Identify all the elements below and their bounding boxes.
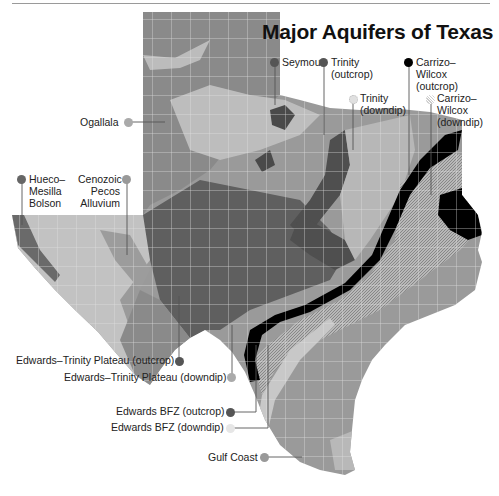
seymour-label: Seymour bbox=[282, 56, 324, 68]
trinity-downdip-label: Trinity (downdip) bbox=[360, 92, 406, 116]
map-title: Major Aquifers of Texas bbox=[262, 20, 493, 44]
carrizo-wilcox-downdip-label: Carrizo– Wilcox (downdip) bbox=[437, 92, 483, 128]
edwards-trinity-downdip-label: Edwards–Trinity Plateau (downdip) bbox=[64, 371, 226, 383]
ogallala-legend-dot bbox=[124, 118, 133, 127]
hueco-mesilla-legend-dot bbox=[17, 175, 26, 184]
cenozoic-pecos-alluvium-label: Cenozoic Pecos Alluvium bbox=[78, 173, 120, 209]
pecos-legend-dot bbox=[122, 175, 131, 184]
edwards-bfz-downdip-label: Edwards BFZ (downdip) bbox=[111, 421, 224, 433]
edwards-bfz-downdip-legend-dot bbox=[226, 424, 235, 433]
carrizo-wilcox-outcrop-label: Carrizo– Wilcox (outcrop) bbox=[416, 56, 458, 92]
edwards-bfz-outcrop-legend-dot bbox=[226, 408, 235, 417]
trinity-outcrop-legend-dot bbox=[319, 58, 328, 67]
carrizo-wilcox-downdip-legend-dot bbox=[426, 95, 435, 104]
carrizo-wilcox-outcrop-legend-dot bbox=[404, 58, 413, 67]
trinity-downdip-legend-dot bbox=[349, 95, 358, 104]
gulf-coast-label: Gulf Coast bbox=[208, 451, 258, 463]
trinity-outcrop-label: Trinity (outcrop) bbox=[331, 56, 373, 80]
edwards-trinity-outcrop-label: Edwards–Trinity Plateau (outcrop) bbox=[16, 354, 174, 366]
edwards-bfz-outcrop-label: Edwards BFZ (outcrop) bbox=[116, 405, 225, 417]
ogallala-label: Ogallala bbox=[80, 116, 119, 128]
hueco-mesilla-bolson-label: Hueco– Mesilla Bolson bbox=[29, 173, 65, 209]
seymour-legend-dot bbox=[270, 58, 279, 67]
edwards-trinity-downdip-legend-dot bbox=[227, 373, 236, 382]
edwards-trinity-outcrop-legend-dot bbox=[175, 357, 184, 366]
gulf-coast-legend-dot bbox=[260, 453, 269, 462]
